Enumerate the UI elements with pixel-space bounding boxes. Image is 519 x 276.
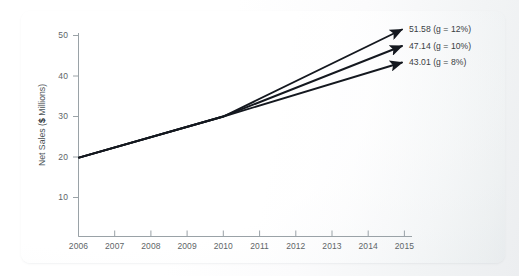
y-tick-label-20: 20: [46, 152, 68, 162]
series-line-g10: [79, 46, 402, 158]
x-tick-label-2007: 2007: [95, 241, 135, 251]
y-tick-label-30: 30: [46, 111, 68, 121]
series-annotation-g12: 51.58 (g = 12%): [409, 24, 471, 34]
x-tick-label-2011: 2011: [240, 241, 280, 251]
x-tick-label-2010: 2010: [203, 241, 243, 251]
x-tick-label-2008: 2008: [131, 241, 171, 251]
x-tick-label-2013: 2013: [312, 241, 352, 251]
y-axis-ticks: [73, 36, 79, 198]
x-tick-label-2014: 2014: [348, 241, 388, 251]
y-tick-label-10: 10: [46, 192, 68, 202]
x-tick-label-2006: 2006: [59, 241, 99, 251]
x-tick-label-2009: 2009: [167, 241, 207, 251]
y-tick-label-50: 50: [46, 30, 68, 40]
x-axis-ticks: [79, 231, 405, 237]
series-annotation-g10: 47.14 (g = 10%): [409, 41, 471, 51]
y-tick-label-40: 40: [46, 71, 68, 81]
y-axis-title: Net Sales ($ Millions): [37, 65, 47, 185]
series-line-g12: [79, 30, 402, 158]
series-annotation-g8: 43.01 (g = 8%): [409, 57, 466, 67]
x-tick-label-2015: 2015: [384, 241, 424, 251]
chart-page: Net Sales ($ Millions) 50 40 30 20 10 20…: [0, 0, 519, 276]
x-tick-label-2012: 2012: [276, 241, 316, 251]
